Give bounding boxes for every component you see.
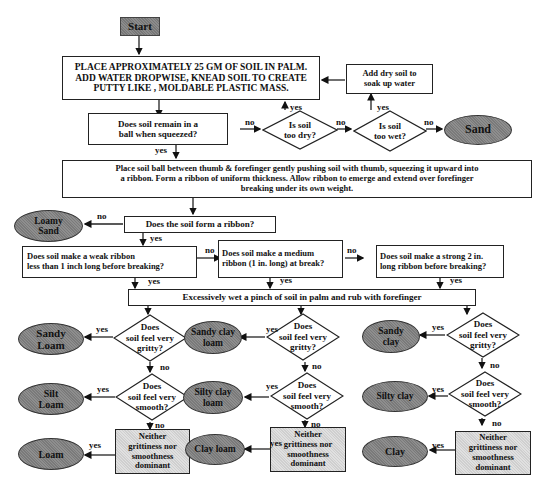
- label-yes: yes: [280, 275, 292, 285]
- label-no: no: [490, 360, 500, 370]
- too-dry-decision: Is soiltoo dry?: [262, 110, 338, 150]
- label-no: no: [155, 420, 165, 430]
- label-yes: yes: [96, 324, 108, 334]
- neither-box-2: Neithergrittiness norsmoothnessdominant: [270, 427, 346, 472]
- result-loamy-sand: LoamySand: [14, 210, 83, 242]
- add-dry-soil-box: Add dry soil tosoak up water: [346, 64, 433, 94]
- label-no: no: [424, 117, 434, 127]
- label-yes: yes: [290, 102, 302, 112]
- result-clay-loam: Clay loam: [185, 434, 245, 465]
- smooth-decision-2: Doessoil feel verysmooth?: [270, 372, 344, 420]
- label-yes: yes: [432, 384, 444, 394]
- medium-ribbon-question: Does soil make a mediumribbon (1 in. lon…: [218, 240, 343, 278]
- result-silty-clay-loam: Silty clayloam: [183, 381, 243, 414]
- too-wet-decision: Is soiltoo wet?: [353, 110, 427, 152]
- label-no: no: [347, 245, 357, 255]
- step-place-soil: PLACE APPROXIMATELY 25 GM OF SOIL IN PAL…: [62, 56, 320, 100]
- label-yes: yes: [266, 324, 278, 334]
- label-no: no: [205, 245, 215, 255]
- gritty-decision-3: Doessoil feel verygritty?: [446, 312, 520, 358]
- label-yes: yes: [89, 440, 101, 450]
- result-sand: Sand: [444, 115, 512, 145]
- ball-question: Does soil remain in aball when squeezed?: [88, 113, 228, 145]
- label-no: no: [311, 419, 321, 429]
- result-sandy-clay-loam: Sandy clayloam: [184, 321, 242, 354]
- label-no: no: [312, 361, 322, 371]
- label-no: no: [97, 211, 107, 221]
- label-no: no: [160, 362, 170, 372]
- result-silt-loam: SiltLoam: [18, 383, 84, 415]
- gritty-decision-2: Doessoil feel verygritty?: [266, 313, 340, 361]
- step-wet-rub: Excessively wet a pinch of soil in palm …: [128, 289, 476, 306]
- label-yes: yes: [97, 384, 109, 394]
- label-yes: yes: [150, 233, 162, 243]
- result-silty-clay: Silty clay: [362, 381, 428, 412]
- result-sandy-clay: Sandyclay: [362, 320, 420, 353]
- label-no: no: [336, 117, 346, 127]
- label-yes: yes: [432, 440, 444, 450]
- strong-ribbon-question: Does soil make a strong 2 in.long ribbon…: [376, 245, 504, 278]
- result-clay: Clay: [362, 436, 428, 467]
- label-yes: yes: [266, 381, 278, 391]
- smooth-decision-1: Doessoil feel verysmooth?: [115, 373, 189, 421]
- form-ribbon-question: Does the soil form a ribbon?: [124, 216, 276, 233]
- label-no: no: [492, 418, 502, 428]
- smooth-decision-3: Doessoil feel verysmooth?: [448, 371, 522, 417]
- label-yes: yes: [270, 438, 282, 448]
- start-node: Start: [120, 17, 160, 36]
- result-loam: Loam: [18, 438, 84, 470]
- gritty-decision-1: Doessoil feel verygritty?: [113, 314, 187, 362]
- result-sandy-loam: SandyLoam: [18, 323, 84, 355]
- neither-box-1: Neithergrittiness norsmoothnessdominant: [115, 429, 190, 474]
- label-yes: yes: [155, 145, 167, 155]
- label-no: no: [245, 117, 255, 127]
- step-form-ribbon: Place soil ball between thumb & forefing…: [62, 160, 532, 198]
- neither-box-3: Neithergrittiness norsmoothnessdominant: [455, 431, 531, 475]
- label-yes: yes: [432, 322, 444, 332]
- label-yes: yes: [377, 102, 389, 112]
- weak-ribbon-question: Does soil make a weak ribbonless than 1 …: [22, 246, 197, 278]
- label-yes: yes: [450, 275, 462, 285]
- label-yes: yes: [148, 276, 160, 286]
